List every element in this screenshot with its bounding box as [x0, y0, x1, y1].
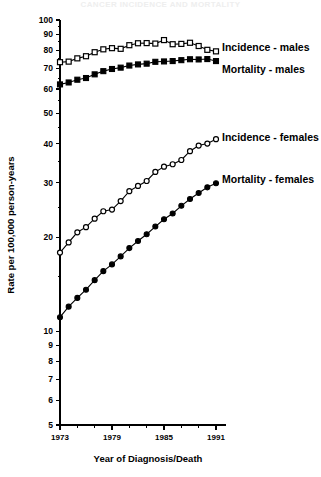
y-tick-label: 7	[48, 374, 53, 384]
y-tick-label: 60	[44, 84, 54, 94]
figure-header-faint: CANCER INCIDENCE AND MORTALITY	[0, 0, 321, 9]
data-point-marker	[75, 230, 80, 235]
data-point-marker	[92, 50, 97, 55]
data-point-marker	[75, 56, 80, 61]
data-series-group	[58, 38, 219, 320]
y-tick-label: 6	[48, 395, 53, 405]
legend: Incidence - malesMortality - malesIncide…	[222, 41, 319, 185]
data-point-marker	[75, 77, 80, 82]
data-point-marker	[66, 59, 71, 64]
data-point-marker	[66, 304, 71, 309]
data-point-marker	[101, 209, 106, 214]
data-point-marker	[136, 183, 141, 188]
data-point-marker	[162, 217, 167, 222]
data-point-marker	[153, 169, 158, 174]
data-point-marker	[188, 197, 193, 202]
series-mortality-males	[58, 57, 219, 87]
x-axis: 1973197919851991	[51, 425, 226, 442]
data-point-marker	[196, 143, 201, 148]
data-point-marker	[205, 141, 210, 146]
data-point-marker	[118, 46, 123, 51]
data-point-marker	[118, 65, 123, 70]
data-point-marker	[118, 254, 123, 259]
data-point-marker	[110, 46, 115, 51]
data-point-marker	[162, 38, 167, 43]
y-tick-label: 100	[39, 15, 53, 25]
data-point-marker	[170, 42, 175, 47]
y-tick-label: 50	[44, 108, 54, 118]
data-point-marker	[196, 44, 201, 49]
data-point-marker	[170, 162, 175, 167]
y-tick-label: 80	[44, 45, 54, 55]
data-point-marker	[153, 59, 158, 64]
y-tick-label: 30	[44, 178, 54, 188]
data-point-marker	[170, 59, 175, 64]
x-tick-label: 1991	[207, 433, 225, 442]
y-tick-label: 9	[48, 340, 53, 350]
x-axis-title: Year of Diagnosis/Death	[94, 453, 203, 464]
data-point-marker	[153, 224, 158, 229]
data-point-marker	[118, 199, 123, 204]
data-point-marker	[58, 250, 63, 255]
data-point-marker	[84, 54, 89, 59]
data-point-marker	[58, 82, 63, 87]
data-point-marker	[205, 47, 210, 52]
data-point-marker	[214, 49, 219, 54]
data-point-marker	[58, 60, 63, 65]
series-mortality-females	[58, 181, 219, 320]
data-point-marker	[196, 57, 201, 62]
data-point-marker	[110, 262, 115, 267]
data-point-marker	[179, 203, 184, 208]
y-tick-label: 40	[44, 139, 54, 149]
data-point-marker	[188, 57, 193, 62]
data-point-marker	[127, 43, 132, 48]
data-point-marker	[136, 41, 141, 46]
data-point-marker	[205, 185, 210, 190]
series-line	[60, 183, 216, 317]
data-point-marker	[162, 164, 167, 169]
y-tick-label: 10	[44, 326, 54, 336]
data-point-marker	[84, 225, 89, 230]
y-tick-label: 70	[44, 63, 54, 73]
data-point-marker	[84, 76, 89, 81]
series-line	[60, 139, 216, 252]
y-axis: 56789102030405060708090100	[39, 15, 60, 430]
data-point-marker	[179, 41, 184, 46]
data-point-marker	[205, 57, 210, 62]
data-point-marker	[136, 239, 141, 244]
data-point-marker	[66, 80, 71, 85]
chart-canvas: 56789102030405060708090100 1973197919851…	[0, 0, 321, 477]
data-point-marker	[101, 47, 106, 52]
data-point-marker	[66, 240, 71, 245]
data-point-marker	[170, 211, 175, 216]
data-point-marker	[101, 269, 106, 274]
data-point-marker	[110, 207, 115, 212]
data-point-marker	[196, 191, 201, 196]
data-point-marker	[162, 59, 167, 64]
data-point-marker	[179, 158, 184, 163]
data-point-marker	[136, 62, 141, 67]
data-point-marker	[92, 278, 97, 283]
y-tick-label: 90	[44, 29, 54, 39]
data-point-marker	[84, 287, 89, 292]
data-point-marker	[144, 232, 149, 237]
legend-mortality-males: Mortality - males	[222, 63, 305, 75]
data-point-marker	[144, 61, 149, 66]
series-incidence-males	[58, 38, 219, 65]
data-point-marker	[188, 40, 193, 45]
legend-incidence-males: Incidence - males	[222, 41, 310, 53]
data-point-marker	[92, 72, 97, 77]
data-point-marker	[127, 63, 132, 68]
data-point-marker	[92, 216, 97, 221]
x-tick-label: 1973	[51, 433, 69, 442]
data-point-marker	[179, 58, 184, 63]
data-point-marker	[153, 41, 158, 46]
data-point-marker	[75, 295, 80, 300]
x-tick-label: 1979	[103, 433, 121, 442]
data-point-marker	[110, 66, 115, 71]
y-axis-title: Rate per 100,000 person-years	[5, 156, 16, 293]
data-point-marker	[144, 178, 149, 183]
data-point-marker	[127, 246, 132, 251]
data-point-marker	[144, 41, 149, 46]
data-point-marker	[127, 189, 132, 194]
